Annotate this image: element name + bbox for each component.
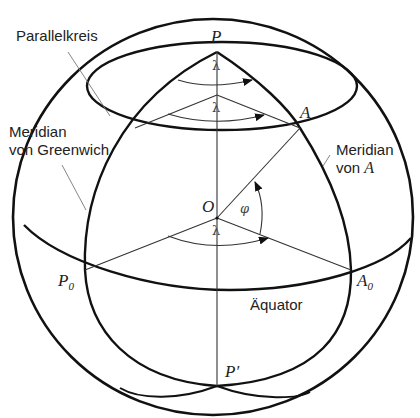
angle-phi: φ — [240, 200, 249, 217]
point-label-p: P — [211, 28, 221, 45]
radius-o-a — [217, 128, 300, 218]
label-meridian-a-2: von A — [336, 159, 374, 176]
meridian-a — [217, 52, 351, 386]
point-label-p0: P0 — [58, 272, 74, 295]
angle-lambda-parallel: λ — [212, 99, 220, 116]
sphere-outline — [13, 19, 413, 415]
label-meridian-a-var: A — [364, 159, 374, 176]
phi-arc — [255, 182, 262, 234]
label-parallelkreis: Parallelkreis — [16, 27, 98, 44]
sphere-diagram: Parallelkreis Meridian von Greenwich Mer… — [0, 0, 420, 418]
label-meridian-greenwich-1: Meridian — [9, 123, 67, 140]
meridian-greenwich — [85, 52, 217, 386]
angle-lambda-equator: λ — [212, 222, 220, 239]
a0-sub: 0 — [367, 280, 373, 292]
lambda-arc-top — [178, 80, 252, 85]
point-label-a: A — [300, 104, 310, 121]
label-aequator: Äquator — [250, 296, 303, 313]
leader-meridian-greenwich — [62, 165, 86, 210]
label-meridian-a-1: Meridian — [336, 141, 394, 158]
leader-meridian-a — [323, 155, 330, 166]
angle-lambda-top: λ — [212, 57, 220, 74]
back-arc-left — [120, 386, 217, 397]
p0-base: P — [58, 271, 68, 290]
back-arc-right — [217, 386, 310, 397]
center-dot — [215, 216, 218, 219]
label-meridian-greenwich-2: von Greenwich — [9, 141, 109, 158]
point-label-a0: A0 — [357, 272, 373, 295]
parallel-radius-left — [135, 95, 217, 128]
point-label-o: O — [202, 198, 214, 215]
a0-base: A — [357, 271, 367, 290]
point-label-p-prime: P′ — [225, 363, 239, 380]
label-meridian-a-prefix: von — [336, 159, 364, 176]
p0-sub: 0 — [68, 280, 74, 292]
